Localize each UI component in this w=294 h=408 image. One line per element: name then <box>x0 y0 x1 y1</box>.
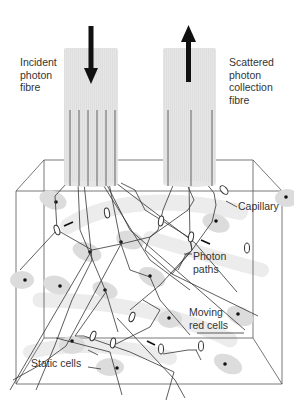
static-cell <box>211 350 246 379</box>
red-cell <box>159 344 164 354</box>
red-cell <box>199 341 204 351</box>
motion-arrow-icon <box>147 341 155 345</box>
static-cell <box>136 263 169 291</box>
label-incident-photon-fibre: Incident photon fibre <box>20 56 57 94</box>
static-cell <box>59 336 85 354</box>
static-cell <box>158 310 182 328</box>
motion-arrow-icon <box>201 240 210 244</box>
label-moving-red-cells: Moving red cells <box>189 306 228 331</box>
label-capillary: Capillary <box>238 200 279 213</box>
red-cell <box>245 243 250 253</box>
label-photon-paths: Photon paths <box>193 250 226 275</box>
red-cell <box>158 216 165 227</box>
red-cell <box>218 184 229 196</box>
red-cell <box>53 224 61 235</box>
label-static-cells: Static cells <box>31 357 81 370</box>
static-cell <box>70 238 104 265</box>
red-cell <box>188 232 195 243</box>
label-scattered-photon-collection-fibre: Scattered photon collection fibre <box>229 56 274 106</box>
static-cell <box>96 358 124 376</box>
static-cell <box>10 271 34 289</box>
